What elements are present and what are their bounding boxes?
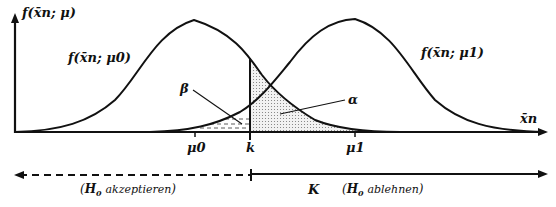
h0-symbol: H bbox=[347, 182, 358, 196]
alpha-label: α bbox=[348, 93, 358, 106]
reject-arrow-head-icon bbox=[538, 170, 548, 178]
beta-pointer bbox=[193, 90, 242, 124]
mu1-label: μ1 bbox=[346, 141, 365, 154]
curve-alternative bbox=[150, 19, 545, 132]
x-axis-label: x̄n bbox=[520, 112, 537, 125]
hypothesis-test-diagram: f(x̄n; μ) f(x̄n; μ0) f(x̄n; μ1) x̄n β α … bbox=[0, 0, 556, 207]
accept-text: akzeptieren bbox=[105, 183, 171, 196]
curve-null bbox=[15, 20, 400, 132]
diagram-canvas bbox=[0, 0, 556, 207]
y-axis-arrow-icon bbox=[11, 13, 19, 23]
h0-subscript: 0 bbox=[96, 188, 102, 198]
reject-region-label: (H0 ablehnen) bbox=[342, 183, 424, 197]
reject-text: ablehnen bbox=[367, 183, 418, 196]
mu0-label: μ0 bbox=[187, 141, 206, 154]
reject-region-symbol: K bbox=[308, 183, 319, 196]
accept-arrow-head-icon bbox=[14, 171, 24, 179]
k-label: k bbox=[246, 141, 255, 154]
beta-label: β bbox=[180, 82, 189, 95]
h0-symbol: H bbox=[85, 182, 96, 196]
y-axis-label: f(x̄n; μ) bbox=[22, 6, 76, 19]
h0-subscript: 0 bbox=[358, 188, 364, 198]
accept-region-label: (H0 akzeptieren) bbox=[80, 183, 176, 197]
curve-null-label: f(x̄n; μ0) bbox=[68, 51, 131, 64]
curve-alternative-label: f(x̄n; μ1) bbox=[421, 46, 484, 59]
